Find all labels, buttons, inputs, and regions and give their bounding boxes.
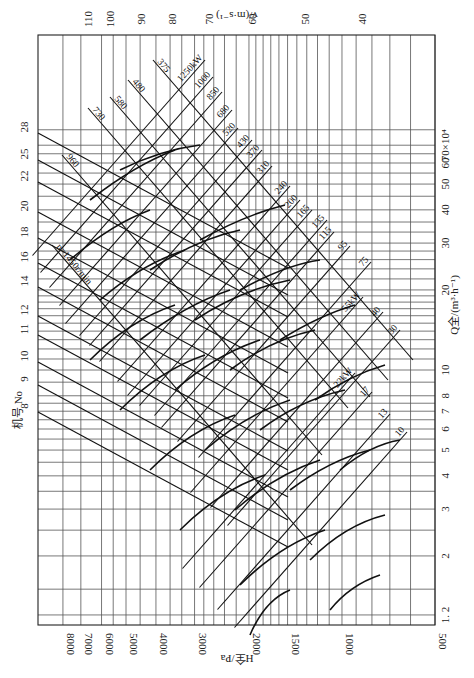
- flow-tick-label: 2: [439, 553, 451, 559]
- power-line: [218, 414, 391, 610]
- pressure-tick-label: 8000: [65, 633, 77, 656]
- pressure-tick-labels: 800070006000500040003000200015001000500: [65, 633, 449, 656]
- flow-tick-label: 3: [439, 506, 451, 512]
- performance-curve: [90, 305, 175, 360]
- flow-tick-label: 7: [439, 408, 451, 414]
- speed-label: 730: [90, 105, 107, 123]
- power-label: 1000: [192, 69, 212, 90]
- machine-number-label: 10: [18, 350, 30, 362]
- pressure-axis-title: H全/Pa: [220, 653, 253, 666]
- performance-curve: [180, 475, 265, 530]
- performance-curve: [100, 250, 185, 300]
- velocity-tick-label: 90: [135, 13, 147, 25]
- velocity-tick-label: 110: [82, 10, 94, 27]
- pressure-tick-label: 500: [437, 633, 449, 650]
- flow-tick-label: 6: [439, 426, 451, 432]
- velocity-tick-label: 40: [356, 13, 368, 25]
- machine-number-label: 16: [18, 251, 30, 263]
- machine-number-label: 28: [18, 121, 30, 133]
- speed-label: n=1450r/min: [54, 242, 94, 287]
- pressure-tick-label: 3000: [197, 633, 209, 656]
- machine-number-label: 25: [18, 148, 30, 160]
- performance-curve: [340, 440, 400, 470]
- pressure-tick-label: 1000: [344, 633, 356, 656]
- power-label: 13: [376, 406, 390, 420]
- performance-curves: [70, 145, 400, 635]
- flow-tick-labels: 1. 2234567810203040506070×10⁴: [439, 129, 451, 623]
- flow-tick-label: 5: [439, 447, 451, 453]
- machine-number-title: 机号 No: [11, 390, 24, 429]
- flow-tick-label: 30: [439, 237, 451, 249]
- flow-tick-label: 50: [439, 178, 451, 190]
- power-label: 95: [336, 238, 350, 252]
- velocity-tick-label: 100: [104, 10, 116, 27]
- power-label: 680: [215, 102, 232, 119]
- machine-line: [38, 263, 288, 398]
- pressure-tick-label: 5000: [128, 633, 140, 656]
- machine-number-labels: 8910111214161820222528: [18, 121, 30, 409]
- flow-tick-label: 1. 2: [439, 607, 451, 624]
- performance-curve: [310, 515, 385, 560]
- speed-label: 480: [130, 77, 147, 95]
- flow-tick-label: 70×10⁴: [439, 129, 451, 161]
- speed-line: [62, 155, 322, 455]
- machine-line: [38, 160, 288, 295]
- power-label: 10: [393, 424, 407, 438]
- pressure-tick-label: 7000: [83, 633, 95, 656]
- machine-number-label: 11: [18, 324, 30, 335]
- pressure-tick-label: 1500: [290, 633, 302, 656]
- machine-number-label: 20: [18, 200, 30, 212]
- pressure-tick-label: 2000: [251, 633, 263, 656]
- power-label: 240: [273, 178, 290, 195]
- flow-tick-label: 4: [439, 473, 451, 479]
- pressure-tick-label: 6000: [104, 633, 116, 656]
- machine-number-label: 14: [18, 275, 30, 287]
- machine-line: [38, 316, 288, 451]
- flow-tick-label: 40: [439, 204, 451, 216]
- velocity-tick-label: 70: [203, 13, 215, 25]
- machine-number-label: 9: [18, 376, 30, 382]
- velocity-tick-label: 50: [299, 13, 311, 25]
- speed-label: 580: [112, 94, 129, 112]
- fan-selection-chart: 1250kW1000850680520430370310240200165135…: [0, 0, 474, 678]
- machine-number-label: 18: [18, 226, 30, 238]
- power-label: 850: [205, 84, 222, 101]
- performance-curve: [205, 400, 290, 450]
- pressure-tick-label: 4000: [158, 633, 170, 656]
- power-label: 30: [386, 322, 400, 336]
- machine-line: [38, 412, 288, 547]
- performance-curve: [70, 210, 150, 260]
- machine-number-label: 22: [18, 171, 30, 182]
- flow-axis-title: Q全/(m³·h⁻¹): [447, 275, 461, 335]
- machine-line: [38, 182, 288, 317]
- flow-tick-label: 10: [439, 364, 451, 376]
- velocity-axis-title: v/(m·s⁻¹): [216, 9, 258, 22]
- velocity-tick-label: 80: [166, 13, 178, 25]
- power-label: 75: [357, 254, 371, 268]
- machine-number-label: 12: [18, 305, 30, 316]
- flow-tick-label: 8: [439, 393, 451, 399]
- performance-curve: [330, 575, 380, 610]
- power-label: 520: [221, 120, 238, 137]
